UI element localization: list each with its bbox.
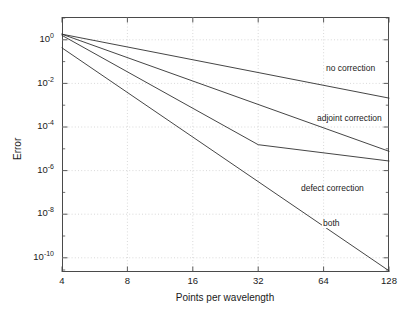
ytick-label-0: 100	[18, 34, 54, 44]
series-label-adjoint-correction: adjoint correction	[316, 114, 383, 123]
xtick-label-4: 64	[304, 276, 344, 286]
xtick-label-5: 128	[369, 276, 409, 286]
series-defect-correction	[62, 35, 389, 161]
figure-log-log-error-plot: 100 10-2 10-4 10-6 10-8 10-10 4 8 16 32 …	[0, 0, 420, 324]
series-label-both: both	[322, 219, 341, 228]
xtick-label-0: 4	[42, 276, 82, 286]
x-axis-title: Points per wavelength	[145, 292, 305, 303]
series-both	[62, 48, 389, 271]
xtick-label-1: 8	[107, 276, 147, 286]
xtick-label-2: 16	[173, 276, 213, 286]
ytick-label-5: 10-10	[14, 252, 54, 262]
ytick-label-1: 10-2	[18, 78, 54, 88]
y-axis-title: Error	[12, 138, 23, 160]
grid-vertical	[127, 17, 323, 272]
ytick-label-4: 10-8	[18, 208, 54, 218]
x-major-ticks	[62, 17, 389, 272]
xtick-label-3: 32	[238, 276, 278, 286]
series-adjoint-correction	[62, 34, 389, 151]
series-label-defect-correction: defect correction	[300, 184, 365, 193]
ytick-label-3: 10-6	[18, 165, 54, 175]
ytick-label-2: 10-4	[18, 121, 54, 131]
series-label-no-correction: no correction	[325, 64, 376, 73]
y-minor-ticks	[62, 18, 389, 270]
